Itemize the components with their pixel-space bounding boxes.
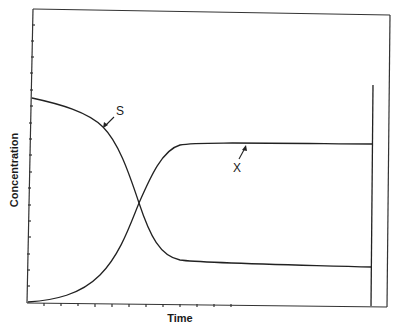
x-axis-label: Time	[167, 312, 192, 324]
curve-x	[28, 143, 372, 302]
x-axis	[27, 303, 387, 307]
y-axis	[27, 9, 33, 303]
s-label: S	[116, 104, 124, 118]
s-arrowhead-icon	[103, 122, 108, 128]
x-arrowhead-icon	[242, 145, 247, 151]
y-axis-label: Concentration	[8, 132, 20, 207]
x-curve-label: X	[233, 161, 241, 175]
chart: S X Time Concentration	[0, 0, 397, 327]
frame-right	[387, 15, 390, 307]
curve-s	[32, 98, 372, 267]
frame-top	[33, 9, 390, 15]
end-marker-line	[371, 85, 373, 306]
